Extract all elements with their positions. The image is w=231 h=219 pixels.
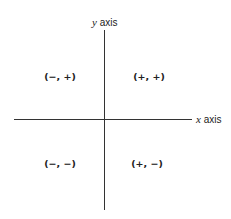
x-axis-label: x axis: [196, 113, 221, 126]
y-axis-line: [104, 30, 105, 210]
x-axis-variable: x: [196, 113, 201, 125]
quadrant-label-bottom-left: (−, −): [44, 158, 76, 170]
y-axis-variable: y: [92, 16, 97, 28]
quadrant-label-top-right: (+, +): [133, 71, 165, 83]
quadrant-label-bottom-right: (+, −): [131, 158, 163, 170]
y-axis-label: y axis: [92, 16, 117, 29]
y-axis-word: axis: [100, 17, 118, 28]
x-axis-line: [14, 119, 192, 120]
x-axis-word: axis: [204, 114, 222, 125]
quadrant-label-top-left: (−, +): [44, 71, 76, 83]
